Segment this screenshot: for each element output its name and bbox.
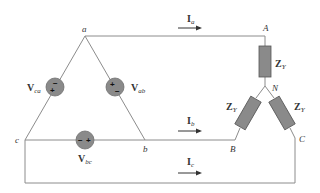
svg-text:−: − <box>115 87 120 96</box>
arrow-ib <box>178 129 202 134</box>
impedance-zb <box>235 96 261 130</box>
impedance-zc <box>269 96 295 130</box>
label-ic: Ic <box>187 156 195 169</box>
svg-text:+: + <box>50 86 55 95</box>
node-a: a <box>82 24 87 34</box>
label-vbc: Vbc <box>78 153 93 166</box>
arrow-ia <box>178 26 202 31</box>
label-zb: ZY <box>226 101 238 114</box>
label-vab: Vab <box>131 82 146 95</box>
label-vca: Vca <box>27 82 41 95</box>
source-vab: + − <box>106 78 124 96</box>
label-zc: ZY <box>294 101 306 114</box>
wire-ZC-C <box>290 128 295 138</box>
svg-text:−: − <box>78 136 83 145</box>
impedance-za <box>259 46 271 77</box>
arrow-ic <box>178 171 202 176</box>
node-N: N <box>271 83 279 93</box>
delta-wye-circuit: − + + − − + Vca Vab Vbc a b c A B C N ZY… <box>0 0 320 193</box>
node-c: c <box>15 135 19 145</box>
node-A: A <box>262 23 269 33</box>
label-ia: Ia <box>187 13 195 26</box>
source-vbc: − + <box>76 131 94 149</box>
node-b: b <box>143 144 148 154</box>
wire-N-ZB <box>256 86 265 98</box>
label-ib: Ib <box>187 115 195 128</box>
source-vca: − + <box>46 78 64 96</box>
svg-text:+: + <box>86 136 91 145</box>
node-B: B <box>230 144 236 154</box>
label-za: ZY <box>275 58 287 71</box>
node-C: C <box>299 134 306 144</box>
wire-ZB-B <box>235 128 240 140</box>
